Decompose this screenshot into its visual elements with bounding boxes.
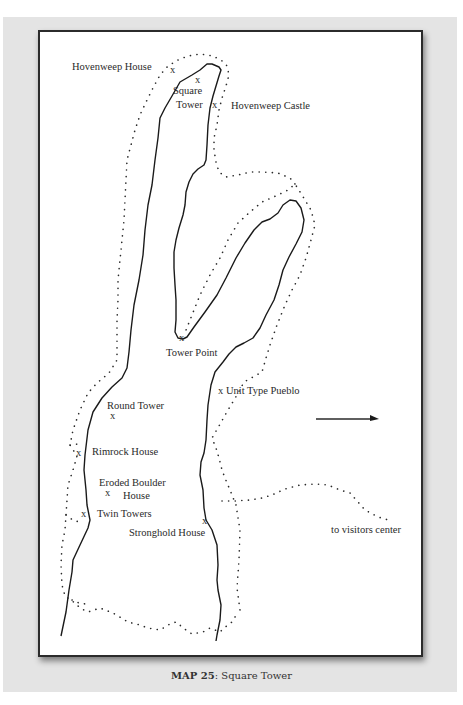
label-stronghold-house: Stronghold House xyxy=(129,527,205,539)
site-marker-icon: x xyxy=(76,447,81,459)
map-caption: MAP 25: Square Tower xyxy=(0,670,463,681)
site-marker-icon: x xyxy=(110,410,115,422)
trail-to-visitors-center xyxy=(222,484,392,521)
trail-dotted-detour xyxy=(66,444,90,604)
label-square-tower-line1: Square xyxy=(173,85,202,97)
label-hovenweep-house: Hovenweep House xyxy=(72,61,152,73)
direction-arrow-head xyxy=(370,415,379,421)
trail-dotted-line-upper xyxy=(61,54,295,634)
map-title: : Square Tower xyxy=(215,670,292,681)
label-to-visitors-center: to visitors center xyxy=(331,524,401,536)
label-unit-type-pueblo: x Unit Type Pueblo xyxy=(218,385,300,397)
site-marker-icon: x xyxy=(105,487,110,499)
site-marker-icon: x xyxy=(195,74,200,86)
label-hovenweep-castle: Hovenweep Castle xyxy=(231,100,310,112)
site-marker-icon: x xyxy=(179,332,184,344)
label-tower-point: Tower Point xyxy=(166,347,217,359)
trail-dotted-line xyxy=(184,184,315,610)
site-marker-icon: x xyxy=(212,99,217,111)
label-twin-towers: Twin Towers xyxy=(97,508,152,520)
label-eroded-boulder-line2: House xyxy=(123,490,150,502)
label-round-tower: Round Tower xyxy=(107,400,164,412)
site-marker-icon: x xyxy=(170,64,175,76)
label-rimrock-house: Rimrock House xyxy=(92,446,158,458)
map-number: MAP 25 xyxy=(171,670,215,681)
label-square-tower-line2: Tower xyxy=(176,99,203,111)
site-marker-icon: x xyxy=(81,508,86,520)
site-marker-icon: x xyxy=(202,515,207,527)
